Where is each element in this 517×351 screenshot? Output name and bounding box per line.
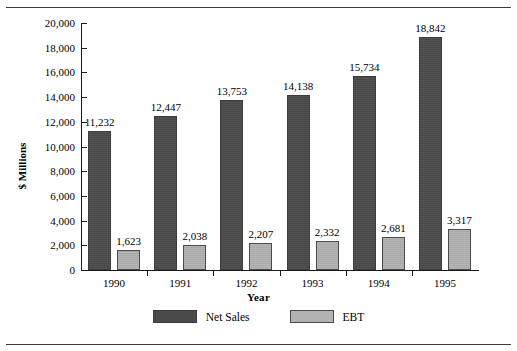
legend-item-ebt: EBT [290,310,365,323]
y-axis-tick-label: 0 [20,265,75,276]
figure-top-rule [6,7,511,8]
y-axis-tick-label: 12,000 [20,117,75,128]
y-axis-tick-label: 6,000 [20,191,75,202]
legend-swatch [290,310,334,323]
bar-net-sales-1992 [220,100,243,270]
bar-ebt-1995 [448,229,471,270]
x-axis-tick [412,270,413,276]
bar-value-label: 2,038 [169,231,220,242]
bar-ebt-1993 [316,241,339,270]
bar-net-sales-1990 [88,131,111,270]
y-axis-tick-label: 16,000 [20,67,75,78]
x-axis-tick-label: 1991 [147,277,213,289]
x-axis-tick-label: 1990 [81,277,147,289]
bar-net-sales-1993 [287,95,310,270]
x-axis-tick-label: 1995 [412,277,478,289]
y-axis-tick-label: 18,000 [20,43,75,54]
y-axis-tick [81,270,87,271]
bar-value-label: 2,207 [235,229,286,240]
bar-value-label: 18,842 [405,23,456,34]
bar-ebt-1992 [249,243,272,270]
bar-net-sales-1995 [419,37,442,270]
x-axis-tick-label: 1993 [280,277,346,289]
bar-net-sales-1991 [154,116,177,270]
bar-chart-figure: 20,00018,00016,00014,00012,00010,0008,00… [0,0,517,351]
figure-bottom-rule [6,344,511,345]
y-axis-title: $ Millions [16,126,28,206]
bar-net-sales-1994 [353,76,376,270]
bar-value-label: 12,447 [140,102,191,113]
bar-value-label: 3,317 [434,215,485,226]
plot-area: 11,2321,62312,4472,03813,7532,20714,1382… [81,23,478,270]
legend-label: Net Sales [206,311,250,323]
legend-label: EBT [343,311,365,323]
y-axis-tick-label: 4,000 [20,216,75,227]
bar-value-label: 15,734 [339,62,390,73]
x-axis-tick-label: 1994 [346,277,412,289]
legend-item-net-sales: Net Sales [153,310,250,323]
bar-value-label: 2,332 [302,227,353,238]
x-axis-tick [213,270,214,276]
x-axis-tick [280,270,281,276]
x-axis-tick [147,270,148,276]
bar-value-label: 2,681 [368,223,419,234]
chart-legend: Net SalesEBT [0,310,517,323]
bar-value-label: 1,623 [103,236,154,247]
bar-ebt-1990 [117,250,140,270]
y-axis-tick-label: 10,000 [20,142,75,153]
x-axis-tick [346,270,347,276]
y-axis-tick-label: 14,000 [20,92,75,103]
bar-ebt-1994 [382,237,405,270]
bar-value-label: 13,753 [206,86,257,97]
x-axis-title: Year [0,291,517,303]
bar-value-label: 11,232 [74,117,125,128]
x-axis-tick-label: 1992 [213,277,279,289]
bar-ebt-1991 [183,245,206,270]
y-axis-tick-label: 2,000 [20,240,75,251]
legend-swatch [153,310,197,323]
y-axis-tick-label: 20,000 [20,18,75,29]
y-axis-tick-label: 8,000 [20,166,75,177]
bar-value-label: 14,138 [273,81,324,92]
